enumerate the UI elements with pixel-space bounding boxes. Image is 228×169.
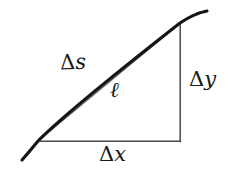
- variable-s: s: [75, 50, 87, 74]
- label-delta-y: Δy: [189, 69, 216, 90]
- label-delta-x: Δx: [99, 144, 126, 165]
- delta-symbol-x: Δ: [99, 142, 114, 166]
- arc-taper-start: [22, 150, 31, 161]
- arc-length-figure: Δs ℓ Δy Δx: [0, 0, 228, 169]
- label-delta-s: Δs: [60, 52, 87, 74]
- delta-symbol-s: Δ: [60, 50, 76, 75]
- variable-y: y: [204, 67, 216, 91]
- label-chord-ell: ℓ: [110, 80, 119, 101]
- delta-symbol-y: Δ: [189, 67, 204, 91]
- variable-x: x: [114, 142, 126, 166]
